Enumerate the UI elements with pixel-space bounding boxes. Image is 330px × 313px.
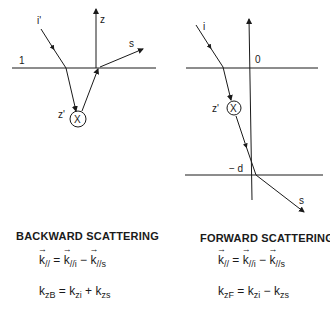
scattering-diagrams: i' z s 1 z' X i 0 z' X − d s xyxy=(0,0,330,230)
operator: + xyxy=(85,284,92,298)
sub: // xyxy=(224,259,229,269)
z-axis xyxy=(249,19,252,200)
depth-label: − d xyxy=(229,163,243,174)
sub: zs xyxy=(280,290,289,300)
sub: zi xyxy=(75,290,82,300)
k-vec: k xyxy=(64,253,70,267)
incident-ray xyxy=(196,25,223,67)
k-vec: k xyxy=(243,253,249,267)
s-label: s xyxy=(299,195,304,206)
scatterer-label: X xyxy=(230,103,237,114)
scattered-ray xyxy=(256,175,304,212)
sub: zs xyxy=(101,290,110,300)
s-label: s xyxy=(129,38,134,49)
refracted-down-ray xyxy=(66,68,76,111)
equals: = xyxy=(237,284,244,298)
sub: //i xyxy=(249,259,256,269)
operator: − xyxy=(80,253,87,267)
backward-eq2: kzB = kzi + kzs xyxy=(39,284,110,300)
refracted-ray xyxy=(223,67,231,100)
return-up-ray xyxy=(82,69,98,111)
zprime-label: z' xyxy=(212,103,219,114)
k-vec: k xyxy=(90,253,96,267)
scatterer-label: X xyxy=(74,114,81,125)
backward-diagram xyxy=(12,9,156,127)
zprime-label: z' xyxy=(58,109,65,120)
forward-diagram xyxy=(185,19,323,212)
sub: zB xyxy=(45,290,56,300)
k-vec: k xyxy=(269,253,275,267)
operator: − xyxy=(264,284,271,298)
origin-label: 0 xyxy=(255,54,261,65)
equals: = xyxy=(232,253,239,267)
incident-label: i xyxy=(203,21,205,32)
operator: − xyxy=(259,253,266,267)
incident-ray xyxy=(41,29,66,68)
k-vec: k xyxy=(218,253,224,267)
incident-label: i' xyxy=(37,15,41,26)
sub: //s xyxy=(96,259,106,269)
k-vec: k xyxy=(39,253,45,267)
sub: //i xyxy=(70,259,77,269)
sub: zF xyxy=(224,290,234,300)
equals: = xyxy=(59,284,66,298)
sub: zi xyxy=(254,290,261,300)
sub: //s xyxy=(275,259,285,269)
backward-eq1: k// = k//i − k//s xyxy=(39,253,106,269)
backward-title: BACKWARD SCATTERING xyxy=(16,230,159,242)
medium-label: 1 xyxy=(19,55,25,66)
forward-eq1: k// = k//i − k//s xyxy=(218,253,285,269)
equals: = xyxy=(53,253,60,267)
sub: // xyxy=(45,259,50,269)
forward-title: FORWARD SCATTERING xyxy=(200,232,330,244)
forward-eq2: kzF = kzi − kzs xyxy=(218,284,289,300)
z-label: z xyxy=(100,14,105,25)
scattered-ray xyxy=(100,49,143,67)
